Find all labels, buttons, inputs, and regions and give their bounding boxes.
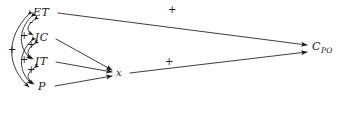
edge-x-to-cpo xyxy=(130,52,307,73)
node-label-cpo: CPO xyxy=(312,41,333,55)
path-diagram: ET IC IT P x CPO - + + + + + + + xyxy=(0,0,342,122)
edge-et-to-cpo xyxy=(58,13,307,45)
edge-it-to-x xyxy=(56,62,112,72)
sign-ic-p: + xyxy=(20,55,28,65)
cpo-base: C xyxy=(312,40,321,53)
edge-p-to-x xyxy=(55,76,112,86)
node-label-x: x xyxy=(116,68,122,78)
cpo-subscript: PO xyxy=(321,46,333,55)
node-label-p: P xyxy=(38,81,46,92)
node-label-et: ET xyxy=(33,7,49,18)
sign-it-p: + xyxy=(27,65,35,75)
sign-x-cpo: + xyxy=(165,57,173,67)
node-label-it: IT xyxy=(35,56,48,67)
node-label-ic: IC xyxy=(35,32,49,43)
sign-et-cpo: + xyxy=(168,5,176,15)
sign-et-ic: - xyxy=(29,16,33,27)
edge-ic-to-x xyxy=(56,39,112,70)
sign-et-it: + xyxy=(20,31,28,41)
sign-et-p: + xyxy=(8,45,16,55)
sign-ic-it: + xyxy=(27,40,35,50)
